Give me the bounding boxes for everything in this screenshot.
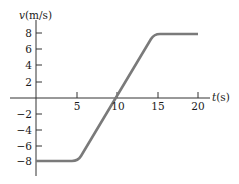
y-tick-label: −2: [17, 108, 32, 120]
y-tick-label: 2: [25, 76, 32, 88]
y-tick-label: −6: [17, 140, 33, 152]
y-tick-label: 8: [25, 27, 32, 39]
y-axis-title: v(m/s): [19, 9, 52, 21]
x-tick-label: 20: [191, 100, 204, 112]
y-tick-label: 4: [25, 59, 32, 71]
velocity-time-chart: 5 10 15 20 8 6 4 2 −2 −4 −6 −8 v(m/s) t(…: [0, 0, 239, 184]
x-tick-label: 15: [151, 100, 164, 112]
x-axis-title: t(s): [212, 91, 230, 103]
y-tick-label: −4: [17, 124, 33, 136]
y-tick-label: −8: [17, 155, 32, 167]
y-ticks: [36, 33, 42, 146]
x-tick-label: 5: [74, 100, 81, 112]
x-tick-label: 10: [111, 100, 124, 112]
x-ticks: [77, 92, 198, 98]
y-tick-label: 6: [25, 43, 32, 55]
